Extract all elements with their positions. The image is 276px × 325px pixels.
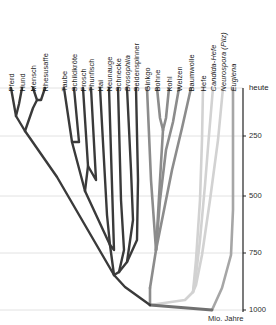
taxon-label: Hai: [97, 80, 104, 91]
axis-tick-label: 1000: [249, 305, 266, 314]
taxon-label: Weizen: [176, 66, 183, 91]
tree-branch: [163, 88, 169, 130]
tree-root: [150, 305, 212, 310]
taxon-label: Pferd: [8, 73, 15, 91]
taxon-label: Kohl: [166, 76, 173, 91]
tree-branch: [25, 88, 37, 131]
axis-tick-label: 250: [249, 131, 262, 140]
taxon-label: Euglena: [230, 64, 237, 92]
tree-branch: [88, 88, 96, 180]
taxon-label: Seidenspinner: [133, 43, 140, 92]
axis-tick-label: 500: [249, 191, 262, 200]
tree-branch: [114, 275, 150, 305]
clade-euglena: [212, 88, 233, 310]
taxon-label: Taube: [61, 71, 68, 92]
tree-branch: [150, 305, 212, 310]
axis-unit-caption: Mio. Jahre: [208, 314, 243, 323]
tree-branch: [212, 88, 233, 310]
taxon-label: Mensch: [30, 65, 37, 91]
tree-branch: [72, 88, 79, 142]
tree-branch: [118, 88, 124, 272]
today-label: heute: [249, 83, 269, 92]
taxon-label: Neunauge: [106, 56, 113, 91]
tree-branch: [16, 88, 22, 116]
taxon-label: Schildkröte: [71, 54, 78, 92]
taxon-label: Rhesusaffe: [42, 53, 49, 91]
tree-branch: [109, 88, 114, 250]
axis-tick-label: 750: [249, 248, 262, 257]
phylogenetic-tree-figure: PferdHundMenschRhesusaffeTaubeSchildkröt…: [0, 0, 276, 325]
taxon-label: Ginkgo: [144, 67, 151, 91]
tree-branch: [147, 88, 156, 288]
tree-branch: [157, 88, 163, 130]
taxon-label: Schnecke: [115, 58, 122, 91]
taxon-label: Thunfisch: [88, 58, 95, 91]
taxon-label: Drosophila: [124, 55, 131, 91]
tree-branch: [83, 88, 88, 191]
taxon-label: Hefe: [200, 75, 207, 91]
taxon-label: Neurospora (Pilz): [220, 32, 227, 91]
taxon-label: Bohne: [154, 70, 161, 92]
taxon-label: Hund: [19, 73, 26, 91]
taxon-label: Candida-Hefe: [210, 45, 217, 92]
taxon-label: Baumwolle: [188, 54, 195, 91]
tree-branch: [100, 88, 110, 245]
tree-branch: [150, 292, 193, 305]
